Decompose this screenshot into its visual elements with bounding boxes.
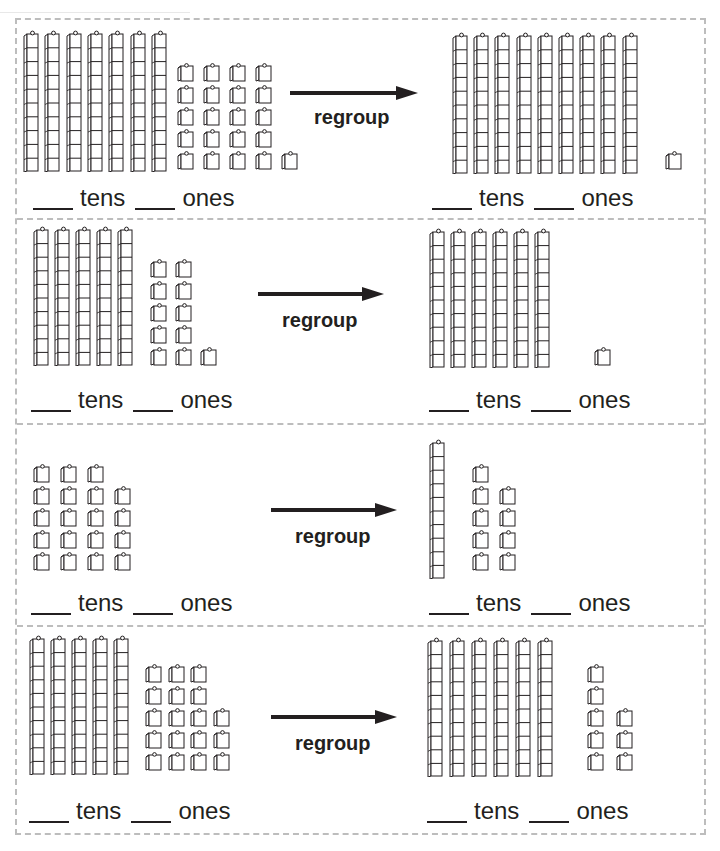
unit-cube-icon <box>255 85 272 104</box>
unit-cube-icon <box>255 63 272 82</box>
problem-row-3: tens ones regroup <box>17 423 704 625</box>
ten-rod-icon <box>534 228 550 372</box>
unit-cube-icon <box>145 708 162 727</box>
unit-cube-icon <box>281 151 298 170</box>
ten-rod-icon <box>87 30 103 176</box>
regroup-arrow: regroup <box>258 287 388 337</box>
ten-rod-icon <box>516 32 532 178</box>
unit-cube-icon <box>87 464 104 483</box>
regroup-arrow: regroup <box>271 503 401 553</box>
ten-rod-icon <box>427 637 443 781</box>
ten-rod-icon <box>151 30 167 176</box>
answer-line-after: tens ones <box>432 186 643 210</box>
answer-line-before: tens ones <box>31 591 242 615</box>
unit-cube-icon <box>587 664 604 683</box>
unit-cube-icon <box>190 708 207 727</box>
tens-blank[interactable] <box>429 390 469 412</box>
unit-cube-icon <box>255 107 272 126</box>
ones-blank[interactable] <box>534 188 574 210</box>
unit-cube-icon <box>229 63 246 82</box>
problem-row-2: tens ones regroup <box>17 218 704 423</box>
ones-blank[interactable] <box>131 801 171 823</box>
tens-label: tens <box>476 591 521 615</box>
ones-blank[interactable] <box>531 593 571 615</box>
ones-blank[interactable] <box>133 593 173 615</box>
ten-rod-icon <box>117 226 133 370</box>
unit-cube-icon <box>616 752 633 771</box>
regroup-label: regroup <box>282 309 358 332</box>
tens-blank[interactable] <box>31 593 71 615</box>
unit-cube-icon <box>175 259 192 278</box>
ones-label: ones <box>578 591 630 615</box>
ten-rod-icon <box>92 635 108 779</box>
ten-rod-icon <box>429 228 445 372</box>
unit-cube-icon <box>190 664 207 683</box>
tens-label: tens <box>76 799 121 823</box>
unit-cube-icon <box>255 151 272 170</box>
unit-cube-icon <box>177 129 194 148</box>
ten-rod-icon <box>29 635 45 779</box>
unit-cube-icon <box>499 486 516 505</box>
tens-label: tens <box>78 591 123 615</box>
ten-rod-icon <box>515 637 531 781</box>
tens-blank[interactable] <box>31 390 71 412</box>
unit-cube-icon <box>587 708 604 727</box>
unit-cube-icon <box>114 530 131 549</box>
unit-cube-icon <box>150 303 167 322</box>
unit-cube-icon <box>203 151 220 170</box>
ten-rod-icon <box>23 30 39 176</box>
ten-rod-icon <box>54 226 70 370</box>
ten-rod-icon <box>75 226 91 370</box>
unit-cube-icon <box>145 664 162 683</box>
unit-cube-icon <box>587 752 604 771</box>
tens-blank[interactable] <box>427 801 467 823</box>
answer-line-after: tens ones <box>427 799 638 823</box>
ten-rod-icon <box>471 228 487 372</box>
unit-cube-icon <box>229 107 246 126</box>
unit-cube-icon <box>60 486 77 505</box>
tens-blank[interactable] <box>432 188 472 210</box>
unit-cube-icon <box>200 347 217 366</box>
unit-cube-icon <box>175 281 192 300</box>
ten-rod-icon <box>513 228 529 372</box>
arrow-head-icon <box>362 287 384 301</box>
ones-blank[interactable] <box>135 188 175 210</box>
ten-rod-icon <box>473 32 489 178</box>
unit-cube-icon <box>472 552 489 571</box>
unit-cube-icon <box>229 151 246 170</box>
unit-cube-icon <box>87 486 104 505</box>
ten-rod-icon <box>537 32 553 178</box>
ones-label: ones <box>182 186 234 210</box>
unit-cube-icon <box>213 730 230 749</box>
arrow-head-icon <box>375 503 397 517</box>
unit-cube-icon <box>255 129 272 148</box>
unit-cube-icon <box>499 552 516 571</box>
unit-cube-icon <box>150 347 167 366</box>
unit-cube-icon <box>60 530 77 549</box>
ten-rod-icon <box>558 32 574 178</box>
tens-blank[interactable] <box>33 188 73 210</box>
unit-cube-icon <box>168 752 185 771</box>
after-panel: tens ones <box>429 425 720 625</box>
tens-blank[interactable] <box>429 593 469 615</box>
ones-blank[interactable] <box>531 390 571 412</box>
unit-cube-icon <box>203 63 220 82</box>
problem-row-1: tens ones regroup <box>17 20 704 220</box>
tens-label: tens <box>479 186 524 210</box>
answer-line-before: tens ones <box>33 186 244 210</box>
unit-cube-icon <box>175 325 192 344</box>
answer-line-before: tens ones <box>29 799 240 823</box>
tens-blank[interactable] <box>29 801 69 823</box>
unit-cube-icon <box>168 686 185 705</box>
ones-blank[interactable] <box>133 390 173 412</box>
ten-rod-icon <box>537 637 553 781</box>
ten-rod-icon <box>450 228 466 372</box>
problem-row-4: tens ones regroup <box>17 625 704 835</box>
ten-rod-icon <box>96 226 112 370</box>
unit-cube-icon <box>177 151 194 170</box>
ten-rod-icon <box>471 637 487 781</box>
unit-cube-icon <box>472 508 489 527</box>
ones-label: ones <box>180 388 232 412</box>
tens-label: tens <box>474 799 519 823</box>
ones-blank[interactable] <box>529 801 569 823</box>
